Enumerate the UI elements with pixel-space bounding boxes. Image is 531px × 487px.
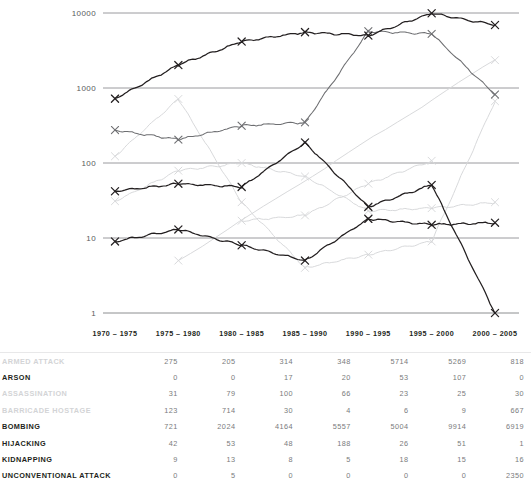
- data-point-marker: [491, 219, 498, 226]
- table-row: ARMED ATTACK27520531434857145269818: [0, 353, 531, 369]
- cell-value: 0: [127, 369, 185, 385]
- table-row: KIDNAPPING91385181516: [0, 451, 531, 467]
- series-assassination: [111, 159, 498, 214]
- y-tick-1: 1: [91, 309, 96, 318]
- series-line: [178, 60, 495, 261]
- cell-value: 53: [358, 369, 416, 385]
- cell-value: 17: [242, 369, 300, 385]
- row-label: ARMED ATTACK: [0, 353, 127, 369]
- cell-value: 42: [127, 435, 185, 451]
- cell-value: 6919: [473, 419, 531, 435]
- cell-value: 5: [185, 468, 243, 484]
- series-hijacking: [111, 139, 498, 317]
- data-point-marker: [491, 199, 498, 206]
- cell-value: 48: [242, 435, 300, 451]
- cell-value: 714: [185, 402, 243, 418]
- log-line-chart: 100001000100101 1970 – 19751975 – 198019…: [0, 0, 531, 350]
- cell-value: 18: [358, 451, 416, 467]
- y-tick-100: 100: [81, 159, 96, 168]
- cell-value: 5714: [358, 353, 416, 369]
- cell-value: 818: [473, 353, 531, 369]
- cell-value: 9: [416, 402, 474, 418]
- cell-value: 26: [358, 435, 416, 451]
- data-point-marker: [111, 126, 118, 133]
- cell-value: 107: [416, 369, 474, 385]
- y-tick-1000: 1000: [77, 84, 97, 93]
- series-armed-attack: [111, 28, 498, 144]
- cell-value: 5: [300, 451, 358, 467]
- x-tick-3: 1985 – 1990: [283, 329, 328, 338]
- cell-value: 30: [242, 402, 300, 418]
- cell-value: 25: [416, 386, 474, 402]
- row-label: BOMBING: [0, 419, 127, 435]
- series-line: [115, 163, 495, 212]
- y-axis-tick-labels: 100001000100101: [72, 9, 96, 318]
- cell-value: 13: [185, 451, 243, 467]
- chart-canvas: 100001000100101 1970 – 19751975 – 198019…: [0, 0, 531, 350]
- series-line: [115, 14, 495, 99]
- cell-value: 15: [416, 451, 474, 467]
- table-row: BOMBING721202441645557500499146919: [0, 419, 531, 435]
- series-line: [115, 142, 495, 314]
- cell-value: 79: [185, 386, 243, 402]
- cell-value: 5269: [416, 353, 474, 369]
- cell-value: 0: [185, 369, 243, 385]
- data-point-marker: [491, 57, 498, 64]
- data-point-marker: [301, 212, 308, 219]
- y-tick-10000: 10000: [72, 9, 96, 18]
- data-point-marker: [301, 139, 308, 146]
- series-line: [242, 160, 432, 221]
- cell-value: 1: [473, 435, 531, 451]
- cell-value: 4164: [242, 419, 300, 435]
- cell-value: 275: [127, 353, 185, 369]
- cell-value: 0: [416, 468, 474, 484]
- data-point-marker: [111, 153, 118, 160]
- cell-value: 721: [127, 419, 185, 435]
- table-row: ASSASSINATION317910066232530: [0, 386, 531, 402]
- cell-value: 2350: [473, 468, 531, 484]
- data-point-marker: [238, 38, 245, 45]
- cell-value: 9914: [416, 419, 474, 435]
- data-point-marker: [491, 91, 498, 98]
- cell-value: 66: [300, 386, 358, 402]
- data-point-marker: [238, 122, 245, 129]
- data-point-marker: [238, 183, 245, 190]
- cell-value: 667: [473, 402, 531, 418]
- x-tick-4: 1990 – 1995: [346, 329, 391, 338]
- row-label: KIDNAPPING: [0, 451, 127, 467]
- cell-value: 348: [300, 353, 358, 369]
- x-tick-2: 1980 – 1985: [219, 329, 264, 338]
- data-point-marker: [301, 264, 308, 271]
- cell-value: 0: [358, 468, 416, 484]
- data-point-marker: [491, 98, 498, 105]
- data-point-marker: [238, 199, 245, 206]
- table-row: ARSON001720531070: [0, 369, 531, 385]
- data-point-marker: [175, 257, 182, 264]
- row-label: ARSON: [0, 369, 127, 385]
- series-line: [115, 30, 495, 140]
- cell-value: 31: [127, 386, 185, 402]
- cell-value: 16: [473, 451, 531, 467]
- table-row: BARRICADE HOSTAGE12371430469667: [0, 402, 531, 418]
- row-label: ASSASSINATION: [0, 386, 127, 402]
- cell-value: 53: [185, 435, 243, 451]
- x-tick-1: 1975 – 1980: [156, 329, 201, 338]
- data-point-marker: [365, 180, 372, 187]
- data-point-marker: [365, 207, 372, 214]
- cell-value: 314: [242, 353, 300, 369]
- data-point-marker: [301, 119, 308, 126]
- cell-value: 5004: [358, 419, 416, 435]
- table-row: HIJACKING42534818826511: [0, 435, 531, 451]
- x-tick-5: 1995 – 2000: [409, 329, 454, 338]
- attack-type-table: ARMED ATTACK27520531434857145269818ARSON…: [0, 352, 531, 484]
- y-tick-10: 10: [86, 234, 96, 243]
- cell-value: 4: [300, 402, 358, 418]
- data-table: ARMED ATTACK27520531434857145269818ARSON…: [0, 353, 531, 484]
- cell-value: 23: [358, 386, 416, 402]
- cell-value: 6: [358, 402, 416, 418]
- series-line: [115, 218, 495, 261]
- cell-value: 8: [242, 451, 300, 467]
- cell-value: 188: [300, 435, 358, 451]
- cell-value: 2024: [185, 419, 243, 435]
- data-point-marker: [111, 95, 118, 102]
